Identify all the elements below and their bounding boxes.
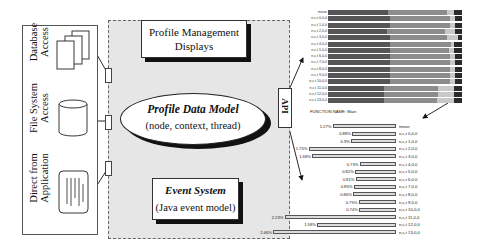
value-label: 0.74% <box>336 207 358 212</box>
bar-segment <box>328 10 388 15</box>
event-system-title: Event System <box>153 184 238 196</box>
bar-segment <box>437 98 454 103</box>
stacked-row: n,c,t 12,0,0 <box>300 92 484 97</box>
bar-segment <box>387 29 445 34</box>
bar-segment <box>455 23 462 28</box>
stacked-bar <box>328 79 462 84</box>
row-label: n,c,t 1,0,0 <box>300 23 327 27</box>
value-label: 1.58% <box>294 222 316 227</box>
bar-segment <box>390 48 449 53</box>
value-label: 0.86% <box>330 192 352 197</box>
bar-segment <box>445 29 456 34</box>
row-label: n,c,t 5,0,0 <box>300 48 327 52</box>
row-label: n,c,t 3,0,0 <box>300 35 327 39</box>
row-label: n,c,t 8,0,0 <box>300 67 327 71</box>
row-label: n,c,t 7,0,0 <box>300 60 327 64</box>
row-label: n,c,t 9,0,0 <box>300 73 327 77</box>
bar-segment <box>438 86 454 91</box>
row-label: n,c,t 11,0,0 <box>300 86 327 90</box>
row-label: n,c,t 10,0,0 <box>300 79 327 83</box>
stacked-bar <box>328 16 462 21</box>
row-label: n,c,t 12,0,0 <box>300 92 327 96</box>
bar-segment <box>384 98 436 103</box>
category-label: n,c,t 11,0,0 <box>399 215 419 220</box>
row-label: n,c,t 2,0,0 <box>300 29 327 33</box>
label-line: Database <box>28 12 39 72</box>
bar-segment <box>454 86 462 91</box>
category-label: n,c,t 7,0,0 <box>399 184 417 189</box>
bar-segment <box>390 42 452 47</box>
stacked-bar <box>328 35 462 40</box>
bar-segment <box>328 42 390 47</box>
value-label: 0.82% <box>332 169 354 174</box>
row-label: mean <box>300 10 327 14</box>
category-label: n,c,t 12,0,0 <box>399 222 420 227</box>
bar-segment <box>328 54 390 59</box>
value-bar <box>359 208 396 212</box>
stacked-bar <box>328 54 462 59</box>
bar-segment <box>447 35 458 40</box>
bar-segment <box>458 35 462 40</box>
value-label: 2.23% <box>262 215 284 220</box>
label-line: Direct from <box>28 134 39 222</box>
row-label: n,c,t 6,0,0 <box>300 54 327 58</box>
stacked-bar <box>328 98 462 103</box>
bar-segment <box>390 60 450 65</box>
value-label: 0.88% <box>329 131 351 136</box>
value-bar <box>312 154 396 158</box>
stacked-row: n,c,t 9,0,0 <box>300 73 484 78</box>
bar-segment <box>455 29 462 34</box>
value-bar <box>333 124 397 128</box>
function-name-label: FUNCTION NAME: Main <box>310 109 356 114</box>
bar-segment <box>454 10 462 15</box>
bar-segment <box>328 48 390 53</box>
row-label: n,c,t 0,0,0 <box>300 16 327 20</box>
bar-segment <box>328 92 384 97</box>
category-label: n,c,t 3,0,0 <box>399 154 417 159</box>
direct-from-application-label: Direct from Application <box>28 134 52 222</box>
category-label: n,c,t 6,0,0 <box>399 177 417 182</box>
bar-segment <box>328 67 390 72</box>
label-line: Application <box>39 134 50 222</box>
displays-subtitle: Displays <box>142 39 246 53</box>
bar-segment <box>447 10 454 15</box>
stacked-row: n,c,t 0,0,0 <box>300 16 484 21</box>
bar-segment <box>390 54 450 59</box>
stacked-row: n,c,t 5,0,0 <box>300 48 484 53</box>
bar-segment <box>384 86 438 91</box>
stacked-row: n,c,t 1,0,0 <box>300 23 484 28</box>
value-bar <box>285 215 397 219</box>
bar-segment <box>455 16 462 21</box>
bar-segment <box>328 60 390 65</box>
bar-segment <box>390 79 450 84</box>
value-bar <box>352 132 396 136</box>
value-label: 1.68% <box>289 154 311 159</box>
label-line: Access <box>39 12 50 72</box>
stacked-row: n,c,t 11,0,0 <box>300 86 484 91</box>
value-label: 1.27% <box>310 124 332 129</box>
bar-segment <box>390 67 450 72</box>
bar-segment <box>390 23 450 28</box>
stacked-row: n,c,t 10,0,0 <box>300 79 484 84</box>
value-bar <box>317 223 396 227</box>
bar-segment <box>384 92 438 97</box>
bar-segment <box>328 16 390 21</box>
connector-database <box>105 68 112 83</box>
event-system-subtitle: (Java event model) <box>153 202 238 213</box>
bar-segment <box>454 48 462 53</box>
value-bar <box>359 200 397 204</box>
stacked-row: n,c,t 2,0,0 <box>300 29 484 34</box>
value-label: 0.73% <box>337 162 359 167</box>
bar-segment <box>328 29 387 34</box>
stacked-bar <box>328 60 462 65</box>
api-box: API <box>278 88 292 128</box>
value-bar <box>351 139 396 143</box>
bar-segment <box>328 23 390 28</box>
stacked-bar <box>328 10 462 15</box>
row-label: n,c,t 4,0,0 <box>300 42 327 46</box>
connector-filesystem <box>105 115 112 130</box>
bar-segment <box>388 10 447 15</box>
bar-segment <box>328 73 390 78</box>
value-bar <box>354 185 397 189</box>
stacked-row: mean <box>300 10 484 15</box>
